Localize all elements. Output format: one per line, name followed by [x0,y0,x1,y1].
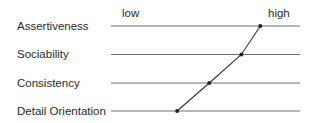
trait-profile-diagram: low high Assertiveness Sociability Consi… [0,0,314,123]
profile-marker [175,109,179,113]
profile-markers [175,24,262,113]
profile-marker [258,24,262,28]
profile-marker [207,81,211,85]
profile-chart [0,0,314,123]
profile-line [177,26,260,111]
profile-marker [239,53,243,57]
scale-lines [111,26,300,111]
